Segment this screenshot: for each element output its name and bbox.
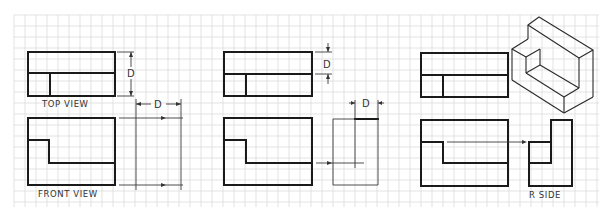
arrowhead-icon bbox=[161, 183, 166, 187]
isometric-pictorial bbox=[512, 17, 593, 113]
right-side-label: R SIDE bbox=[529, 190, 561, 200]
orthographic-diagram: TOP VIEW D D FRONT VIEW bbox=[0, 0, 611, 216]
top-view-label: TOP VIEW bbox=[41, 99, 89, 109]
arrowhead-icon bbox=[326, 74, 330, 79]
arrowhead-icon bbox=[161, 116, 166, 120]
front-view-label: FRONT VIEW bbox=[38, 189, 98, 199]
arrowhead-icon bbox=[522, 140, 527, 144]
arrowhead-icon bbox=[378, 101, 382, 105]
dimension-d-label: D bbox=[127, 68, 135, 79]
arrowhead-icon bbox=[351, 101, 355, 105]
front-view-3 bbox=[421, 120, 527, 186]
arrowhead-icon bbox=[327, 161, 332, 165]
graph-paper-grid bbox=[14, 15, 599, 207]
dimension-d-label: D bbox=[323, 59, 331, 70]
arrowhead-icon bbox=[129, 91, 133, 96]
step-3-group: R SIDE bbox=[421, 17, 593, 200]
arrowhead-icon bbox=[129, 52, 133, 57]
depth-dimension-horizontal-1 bbox=[119, 99, 183, 190]
step-1-group: TOP VIEW D D FRONT VIEW bbox=[28, 52, 183, 199]
top-view-3 bbox=[421, 53, 508, 97]
dimension-d-label: D bbox=[362, 98, 370, 109]
side-view-construction-2 bbox=[316, 100, 384, 185]
arrowhead-icon bbox=[326, 47, 330, 52]
dimension-d-label: D bbox=[154, 99, 162, 110]
right-side-view bbox=[529, 120, 572, 186]
front-view-2 bbox=[224, 118, 312, 185]
